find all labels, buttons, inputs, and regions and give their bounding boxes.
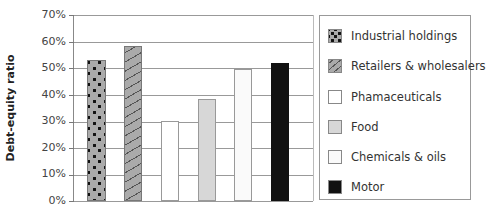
hatched-swatch-icon — [328, 59, 342, 73]
legend-label: Motor — [351, 180, 384, 194]
tick-mark — [69, 42, 74, 43]
tick-mark — [69, 15, 74, 16]
legend-label: Chemicals & oils — [351, 150, 446, 164]
legend-item: Phamaceuticals — [328, 89, 441, 105]
bar-chemicals-oils — [234, 69, 252, 201]
legend-item: Food — [328, 119, 379, 135]
bar-retailers-wholesalers — [124, 46, 142, 201]
dotted-swatch-icon — [328, 29, 342, 43]
y-tick: 50% — [30, 62, 66, 74]
legend-item: Retailers & wholesalers — [328, 58, 486, 74]
y-tick: 0% — [30, 195, 66, 207]
tick-mark — [69, 148, 74, 149]
legend-item: Industrial holdings — [328, 28, 457, 44]
tick-mark — [69, 175, 74, 176]
gridline — [74, 15, 313, 16]
y-tick: 10% — [30, 168, 66, 180]
bar-motor — [271, 63, 289, 201]
legend: Industrial holdings Retailers & wholesal… — [319, 15, 471, 200]
near-white-swatch-icon — [328, 150, 342, 164]
legend-label: Phamaceuticals — [351, 90, 441, 104]
white-swatch-icon — [328, 90, 342, 104]
light-grey-swatch-icon — [328, 120, 342, 134]
y-tick: 40% — [30, 89, 66, 101]
bar-food — [198, 99, 216, 201]
legend-item: Chemicals & oils — [328, 149, 446, 165]
x-axis-line — [74, 201, 313, 202]
black-swatch-icon — [328, 180, 342, 194]
tick-mark — [69, 68, 74, 69]
plot-area — [73, 15, 314, 201]
legend-label: Retailers & wholesalers — [351, 59, 486, 73]
y-tick: 30% — [30, 115, 66, 127]
y-axis-label: Debt-equity ratio — [4, 101, 17, 115]
tick-mark — [69, 201, 74, 202]
y-tick: 20% — [30, 142, 66, 154]
tick-mark — [69, 95, 74, 96]
tick-mark — [69, 122, 74, 123]
legend-item: Motor — [328, 179, 384, 195]
y-tick: 60% — [30, 36, 66, 48]
legend-label: Industrial holdings — [351, 29, 457, 43]
legend-label: Food — [351, 120, 379, 134]
y-tick: 70% — [30, 9, 66, 21]
gridline — [74, 42, 313, 43]
bar-industrial-holdings — [87, 60, 106, 201]
bar-phamaceuticals — [161, 121, 179, 201]
